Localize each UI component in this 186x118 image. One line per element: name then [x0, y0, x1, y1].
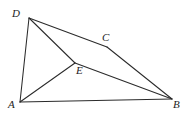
segment-DE	[29, 18, 75, 63]
segment-AB	[20, 99, 172, 102]
segment-AE	[20, 63, 75, 102]
segment-AD	[20, 18, 29, 102]
segment-CB	[107, 47, 172, 99]
edges-group	[20, 18, 172, 102]
vertex-label-C: C	[102, 32, 109, 43]
vertex-label-D: D	[12, 8, 20, 19]
geometry-figure: A B C D E	[0, 0, 186, 118]
vertex-label-E: E	[76, 65, 83, 76]
figure-canvas	[0, 0, 186, 118]
segment-DC	[29, 18, 107, 47]
segment-EB	[75, 63, 172, 99]
vertex-label-A: A	[8, 99, 15, 110]
vertex-label-B: B	[173, 99, 180, 110]
